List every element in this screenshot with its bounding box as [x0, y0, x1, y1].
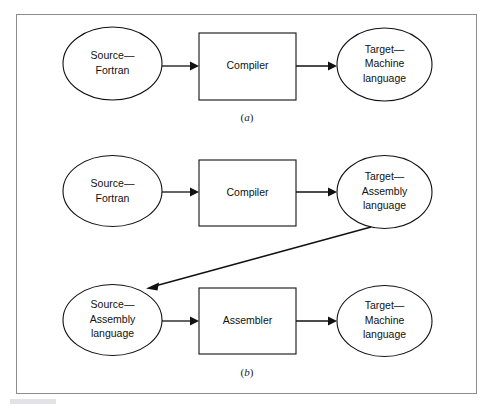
- panel-b-caption: (b): [241, 366, 254, 379]
- node-b-source-fortran: Source— Fortran: [63, 156, 162, 227]
- node-b-source-assembly-line-1: Source—: [91, 298, 135, 310]
- arrow-head-b-1: [190, 188, 199, 197]
- node-b-compiler: Compiler: [199, 160, 296, 226]
- svg-text:(a): (a): [241, 111, 254, 124]
- svg-text:(b): (b): [241, 366, 254, 379]
- node-b-source-assembly: Source— Assembly language: [63, 285, 162, 356]
- node-b-target-machine: Target— Machine language: [337, 286, 432, 357]
- node-b-target-machine-line-1: Target—: [365, 299, 405, 311]
- arrow-head-b-3: [190, 317, 199, 326]
- arrow-head-b-4: [328, 317, 337, 326]
- edge-b-target-assembly-to-source-assembly: [155, 227, 371, 286]
- node-a-target-line-1: Target—: [365, 43, 405, 55]
- panel-a-caption: (a): [241, 111, 254, 124]
- node-b-target-machine-line-2: Machine: [365, 314, 405, 326]
- node-a-source: Source— Fortran: [63, 27, 162, 100]
- node-b-target-assembly-line-1: Target—: [365, 170, 405, 182]
- panel-b: Source— Fortran Compiler Target— Assembl…: [63, 156, 432, 380]
- node-a-target: Target— Machine language: [337, 28, 432, 101]
- node-a-target-line-2: Machine: [365, 57, 405, 69]
- arrow-head-b-diagonal: [146, 283, 159, 291]
- node-a-compiler-label: Compiler: [226, 59, 269, 71]
- compiler-assembler-diagram: Source— Fortran Compiler Target— Machine…: [0, 0, 487, 408]
- node-b-assembler-label: Assembler: [223, 314, 273, 326]
- node-a-compiler: Compiler: [199, 33, 296, 100]
- panel-a: Source— Fortran Compiler Target— Machine…: [63, 27, 432, 124]
- node-b-source-fortran-line-2: Fortran: [96, 192, 130, 204]
- node-b-source-assembly-line-2: Assembly: [90, 313, 136, 325]
- node-b-compiler-label: Compiler: [226, 186, 269, 198]
- node-b-target-assembly-line-3: language: [363, 199, 406, 211]
- panel-a-caption-close: ): [250, 111, 254, 124]
- node-a-source-line-2: Fortran: [96, 64, 130, 76]
- arrow-head-a-1: [190, 62, 199, 71]
- arrow-head-a-2: [328, 62, 337, 71]
- node-b-source-fortran-line-1: Source—: [91, 177, 135, 189]
- node-a-target-line-3: language: [363, 72, 406, 84]
- node-b-target-assembly-line-2: Assembly: [362, 185, 408, 197]
- node-a-source-line-1: Source—: [91, 49, 135, 61]
- arrow-head-b-2: [328, 188, 337, 197]
- page-artifact-mark: [10, 399, 56, 404]
- node-b-source-assembly-line-3: language: [91, 327, 134, 339]
- node-b-target-machine-line-3: language: [363, 328, 406, 340]
- node-b-target-assembly: Target— Assembly language: [337, 156, 432, 229]
- node-b-assembler: Assembler: [199, 288, 296, 354]
- panel-b-caption-close: ): [250, 366, 254, 379]
